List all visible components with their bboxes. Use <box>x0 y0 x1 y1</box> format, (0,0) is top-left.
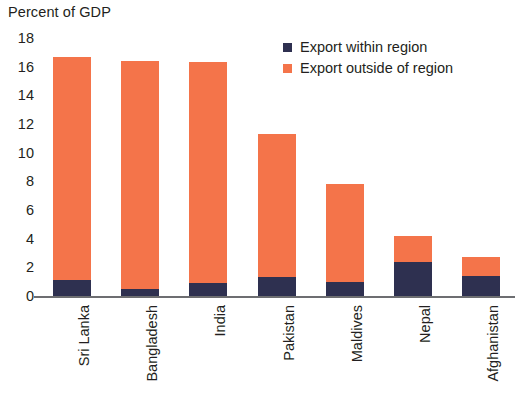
x-label-slot: Pakistan <box>258 302 296 414</box>
y-axis-tick-label: 18 <box>0 31 34 46</box>
x-axis-label: Bangladesh <box>145 305 160 382</box>
y-axis-tick-label: 14 <box>0 88 34 103</box>
x-axis-baseline <box>34 296 515 298</box>
x-axis-label: Pakistan <box>282 305 297 361</box>
bar-segment-export-within-region <box>394 262 432 296</box>
x-axis-label: Afghanistan <box>486 305 501 382</box>
bar-segment-export-outside-of-region <box>258 134 296 277</box>
bar-segment-export-outside-of-region <box>189 62 227 283</box>
x-axis-label: Nepal <box>418 305 433 343</box>
bar-segment-export-within-region <box>462 276 500 296</box>
y-axis-tick-label: 12 <box>0 117 34 132</box>
bar-segment-export-outside-of-region <box>53 57 91 281</box>
y-axis-ticks: 181614121086420 <box>0 38 34 300</box>
x-label-slot: Afghanistan <box>462 302 500 414</box>
bar-maldives[interactable] <box>326 184 364 296</box>
plot-area <box>38 38 515 296</box>
y-axis-tick-label: 0 <box>0 289 34 304</box>
x-axis-label: Maldives <box>350 305 365 362</box>
bar-segment-export-within-region <box>121 289 159 296</box>
x-axis-category-labels: Sri LankaBangladeshIndiaPakistanMaldives… <box>38 302 515 414</box>
bar-bangladesh[interactable] <box>121 61 159 296</box>
x-label-slot: Maldives <box>326 302 364 414</box>
y-axis-tick-label: 6 <box>0 203 34 218</box>
x-label-slot: Sri Lanka <box>53 302 91 414</box>
bar-segment-export-within-region <box>258 277 296 296</box>
x-label-slot: Nepal <box>394 302 432 414</box>
bar-afghanistan[interactable] <box>462 257 500 296</box>
y-axis-tick-label: 8 <box>0 174 34 189</box>
x-axis-label: Sri Lanka <box>77 305 92 366</box>
bar-india[interactable] <box>189 62 227 296</box>
bar-segment-export-within-region <box>189 283 227 296</box>
x-label-slot: India <box>189 302 227 414</box>
y-axis-tick-label: 10 <box>0 145 34 160</box>
stacked-bar-chart: Percent of GDP Export within regionExpor… <box>0 0 515 414</box>
bar-pakistan[interactable] <box>258 134 296 296</box>
y-axis-tick-label: 16 <box>0 59 34 74</box>
y-axis-tick-label: 4 <box>0 231 34 246</box>
bar-segment-export-within-region <box>326 282 364 296</box>
chart-title: Percent of GDP <box>8 4 111 20</box>
bar-segment-export-outside-of-region <box>121 61 159 289</box>
bar-segment-export-outside-of-region <box>394 236 432 262</box>
bar-segment-export-within-region <box>53 280 91 296</box>
x-axis-label: India <box>213 305 228 336</box>
bar-nepal[interactable] <box>394 236 432 296</box>
x-label-slot: Bangladesh <box>121 302 159 414</box>
bar-segment-export-outside-of-region <box>462 257 500 276</box>
bar-segment-export-outside-of-region <box>326 184 364 281</box>
y-axis-tick-label: 2 <box>0 260 34 275</box>
bar-sri-lanka[interactable] <box>53 57 91 296</box>
